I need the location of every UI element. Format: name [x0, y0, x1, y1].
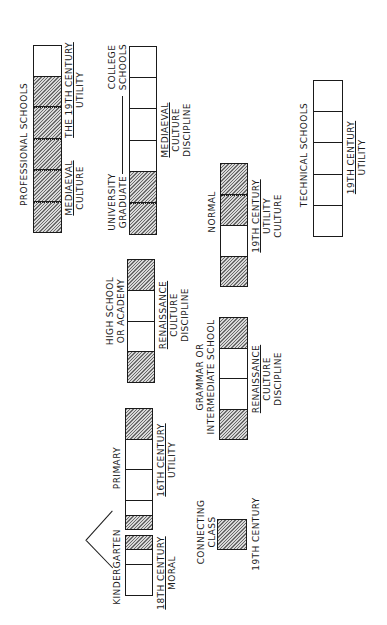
university-graduate-label: UNIVERSITY GRADUATE: [107, 172, 129, 232]
bar-cell: [221, 226, 247, 257]
bar-cell: [34, 46, 61, 77]
college-note-mediaeval: MEDIAEVAL CULTURE DISCIPLINE: [160, 90, 193, 170]
connecting-class-bar: [217, 519, 247, 550]
connecting-class-note: 19TH CENTURY: [251, 496, 262, 572]
bar-cell-hatched: [128, 352, 154, 382]
bar-cell: [126, 565, 152, 595]
college-schools-bar: [129, 46, 157, 235]
professional-schools-title: PROFESSIONAL SCHOOLS: [19, 6, 30, 206]
normal-title: NORMAL: [207, 182, 218, 242]
primary-bar: [125, 408, 153, 530]
kindergarten-bar: [125, 535, 153, 596]
kindergarten-note: 18TH CENTURY MORAL: [156, 528, 178, 618]
bracket-line-lower: [85, 511, 113, 541]
grammar-school-note: RENAISSANCE CULTURE DISCIPLINE: [251, 338, 284, 420]
bar-cell-hatched: [221, 257, 247, 287]
bar-cell-hatched: [218, 520, 246, 549]
professional-note-19th: THE 19TH CENTURY UTILITY: [64, 40, 86, 140]
connecting-class-title: CONNECTING CLASS: [196, 496, 218, 568]
college-schools-title: COLLEGE SCHOOLS: [107, 42, 129, 92]
bracket-line-upper: [86, 540, 113, 568]
bar-cell: [126, 440, 152, 470]
bar-cell-hatched: [34, 202, 61, 233]
bar-cell-hatched: [34, 170, 61, 202]
bar-cell: [130, 47, 156, 78]
primary-title: PRIMARY: [112, 438, 123, 498]
grammar-school-bar: [219, 317, 248, 440]
high-school-bar: [127, 259, 155, 383]
bar-cell: [220, 349, 247, 380]
bar-cell: [314, 143, 342, 174]
bar-cell-hatched: [220, 318, 247, 349]
bar-cell-hatched: [130, 172, 156, 203]
bar-cell-hatched: [221, 195, 247, 227]
bar-cell: [130, 109, 156, 140]
bar-cell-hatched: [130, 203, 156, 234]
technical-note-19th: 19TH CENTURY UTILITY: [346, 110, 368, 205]
bar-cell: [314, 81, 342, 112]
bar-cell-hatched: [128, 260, 154, 291]
bar-cell: [314, 175, 342, 206]
bar-cell-hatched: [34, 77, 61, 108]
bar-cell: [130, 78, 156, 109]
bar-cell: [130, 141, 156, 172]
technical-schools-title: TECHNICAL SCHOOLS: [299, 90, 310, 220]
university-college-connector: [122, 96, 123, 174]
normal-bar: [220, 163, 248, 287]
bar-cell: [126, 501, 152, 516]
bar-cell-hatched: [126, 536, 152, 550]
bar-cell-hatched: [220, 410, 247, 440]
bar-cell: [128, 322, 154, 353]
kindergarten-title: KINDERGARTEN: [112, 527, 123, 607]
professional-schools-bar: [33, 45, 62, 233]
bar-cell: [126, 470, 152, 501]
bar-cell-hatched: [34, 139, 61, 171]
high-school-note: RENAISSANCE CULTURE DISCIPLINE: [158, 274, 191, 356]
bar-cell-hatched: [126, 409, 152, 440]
grammar-school-title: GRAMMAR OR INTERMEDIATE SCHOOL: [195, 317, 217, 437]
bar-cell: [220, 379, 247, 410]
normal-note: 19TH CENTURY UTILITY CULTURE: [251, 170, 284, 262]
bar-cell: [126, 550, 152, 565]
high-school-title: HIGH SCHOOL OR ACADEMY: [105, 270, 127, 352]
primary-note: 16TH CENTURY UTILITY: [156, 415, 178, 505]
bar-cell-hatched: [126, 516, 152, 529]
bar-cell-hatched: [34, 107, 61, 139]
bar-cell: [128, 291, 154, 322]
technical-schools-bar: [313, 80, 343, 237]
bar-cell-hatched: [221, 164, 247, 195]
professional-note-mediaeval: MEDIAEVAL CULTURE: [64, 158, 86, 218]
bar-cell: [314, 112, 342, 143]
bar-cell: [314, 206, 342, 236]
